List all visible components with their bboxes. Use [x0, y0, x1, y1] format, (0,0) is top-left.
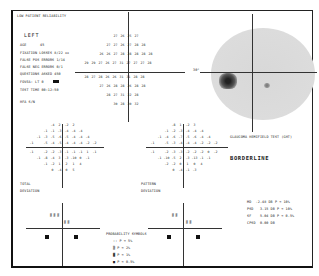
fixation-losses: FIXATION LOSSES 8/22 xx [20, 51, 69, 55]
grayscale-horizontal-axis [200, 72, 317, 73]
total-prob-symbols-row2: ▒ ▒ [64, 220, 69, 224]
total-deviation-title-2: DEVIATION [20, 189, 39, 193]
legend-item-1: ▓ P < 1% [113, 253, 130, 257]
pattern-deviation-title-1: PATTERN [141, 182, 156, 186]
reliability-warning: LOW PATIENT RELIABILITY [17, 14, 66, 18]
index-cpsd: CPSD 0.00 DB [247, 221, 275, 225]
pattern-dev-horizontal-axis [146, 147, 228, 148]
total-deviation-title-1: TOTAL [20, 182, 31, 186]
test-time: TEST TIME 00:12:50 [20, 88, 59, 92]
age-value: 45 [40, 43, 44, 47]
total-prob-vertical-axis [62, 203, 63, 266]
total-dev-horizontal-axis [26, 147, 104, 148]
false-neg-errors: FALSE NEG ERRORS 0/1 [20, 65, 63, 69]
pattern-prob-vertical-axis [183, 203, 184, 266]
fovea-marker [53, 80, 59, 83]
fovea: FOVEA: LT 0 [20, 80, 44, 84]
legend-item-5: :: P < 5% [113, 239, 132, 243]
hfa-serial: HFA S/N [20, 100, 35, 104]
age-label: AGE [20, 43, 26, 47]
legend-title: PROBABILITY SYMBOLS [106, 232, 147, 236]
pattern-prob-horizontal-axis [148, 228, 222, 229]
dots-symbol-icon: :: [113, 239, 117, 243]
eye-label: LEFT [24, 33, 39, 37]
legend-item-05: ■ P < 0.5% [113, 260, 134, 264]
questions-asked: QUESTIONS ASKED 450 [20, 72, 61, 76]
index-sf: SF 5.04 DB P < 0.5% [247, 214, 294, 218]
total-prob-symbols-row1: ▒ ▒ ▒ [50, 213, 59, 217]
index-md: MD -2.48 DB P < 10% [247, 200, 290, 204]
pattern-prob-square-left [167, 235, 171, 239]
false-pos-errors: FALSE POS ERRORS 1/14 [20, 58, 65, 62]
index-psd: PSD 3.15 DB P < 10% [247, 207, 292, 211]
grayscale-vertical-axis [252, 14, 253, 132]
scotoma-dark-region [219, 73, 237, 89]
ght-caption: GLAUCOMA HEMIFIELD TEST (GHT) [230, 135, 292, 139]
dark-shade-icon: ▓ [113, 253, 115, 257]
ght-result: BORDERLINE [230, 156, 269, 160]
threshold-horizontal-axis [75, 72, 185, 73]
pattern-prob-square-right [196, 235, 200, 239]
pattern-prob-symbols-row1: ▒ ▒ [172, 213, 177, 217]
pattern-deviation-title-2: DEVIATION [141, 189, 160, 193]
total-prob-square-left [45, 235, 49, 239]
total-prob-horizontal-axis [26, 228, 100, 229]
pattern-prob-symbols-row2: ▒ ▒ [186, 220, 191, 224]
legend-item-2: ▒ P < 2% [113, 246, 130, 250]
light-shade-icon: ▒ [113, 246, 115, 250]
scotoma-light-region [264, 83, 270, 88]
solid-square-icon: ■ [113, 260, 115, 264]
grayscale-degree-label: 30° [193, 68, 199, 72]
total-prob-square-right [74, 235, 78, 239]
